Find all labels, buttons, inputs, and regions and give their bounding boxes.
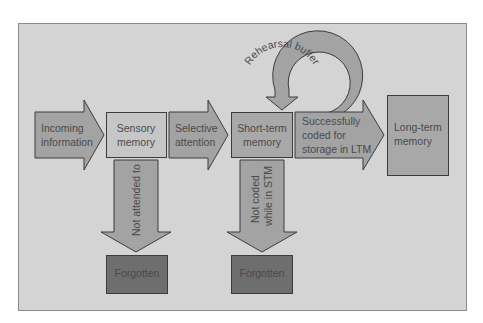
forgotten-label-2: Forgotten (240, 267, 285, 279)
memory-model-diagram: Rehearsal buffer Incoming information Se… (0, 0, 483, 323)
forgotten-box-2: Forgotten (232, 256, 293, 294)
sensory-label-2: memory (117, 136, 156, 148)
not-coded-label-1: Not coded (249, 175, 261, 223)
sensory-label-1: Sensory (117, 122, 156, 134)
coded-label-2: coded for (302, 129, 346, 141)
short-term-memory-box: Short-term memory (232, 113, 293, 158)
forgotten-box-1: Forgotten (107, 256, 168, 294)
sensory-memory-box: Sensory memory (107, 113, 167, 158)
not-coded-label-2: while in STM (262, 166, 274, 227)
selective-label-1: Selective (175, 122, 218, 134)
coded-label-1: Successfully (302, 115, 361, 127)
selective-label-2: attention (175, 136, 215, 148)
coded-label-3: storage in LTM (302, 143, 371, 155)
forgotten-label-1: Forgotten (115, 267, 160, 279)
ltm-label-2: memory (394, 135, 433, 147)
incoming-label-1: Incoming (41, 122, 84, 134)
ltm-label-1: Long-term (394, 121, 442, 133)
stm-label-2: memory (243, 136, 282, 148)
stm-label-1: Short-term (237, 122, 287, 134)
long-term-memory-box: Long-term memory (388, 96, 449, 176)
not-attended-label: Not attended to (130, 164, 142, 236)
incoming-label-2: information (41, 136, 93, 148)
